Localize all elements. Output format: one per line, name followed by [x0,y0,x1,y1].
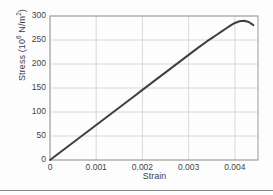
bottom-divider [0,190,273,191]
stress-strain-curve [50,21,253,160]
stress-strain-figure: Stress (106 N/m2) 050100150200250300 00.… [0,0,273,195]
gridlines [50,16,258,160]
x-axis-title: Strain [50,171,259,181]
